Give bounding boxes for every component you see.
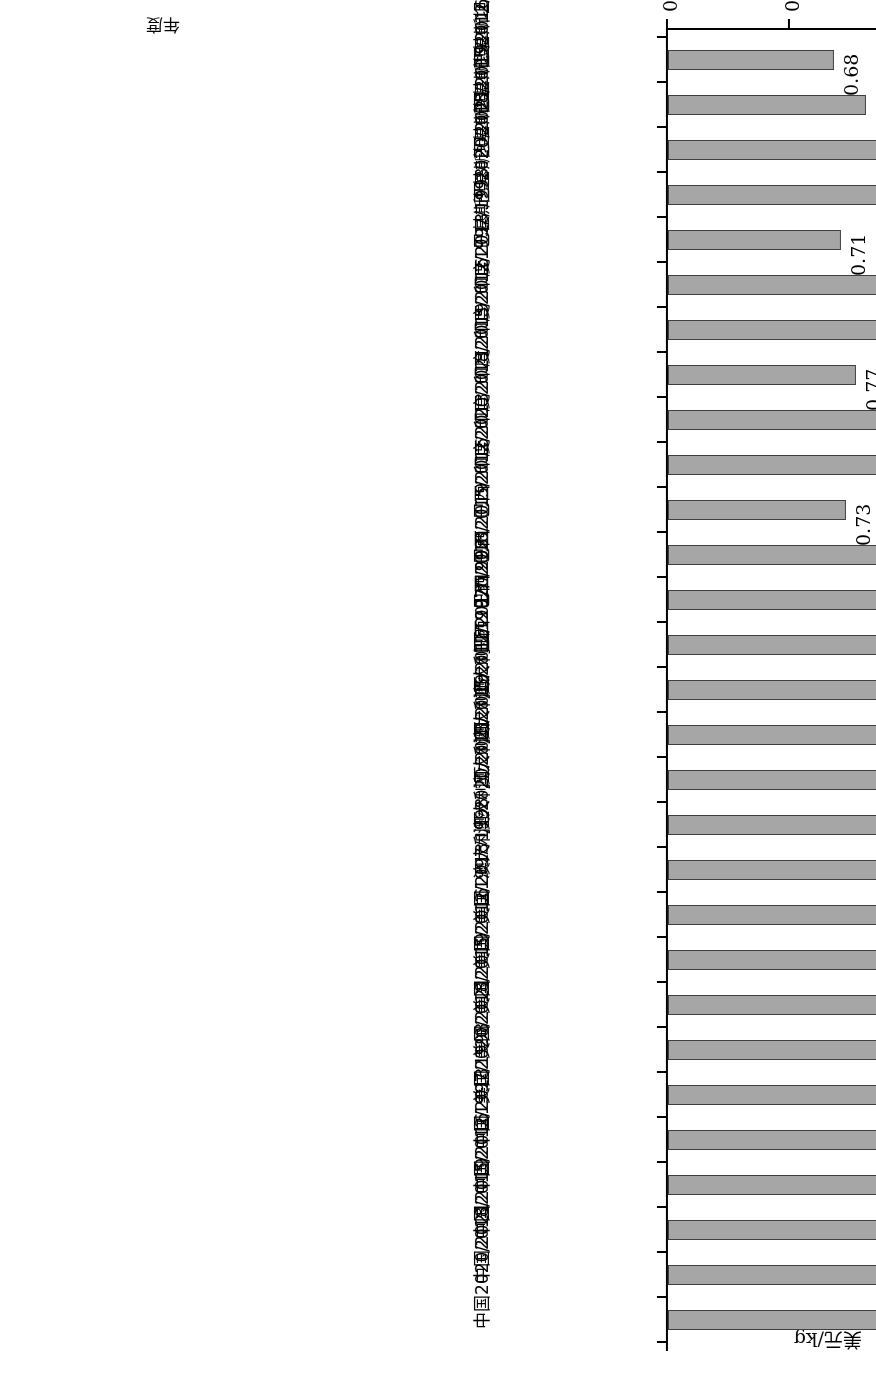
bar xyxy=(668,816,876,836)
bar xyxy=(668,1311,876,1331)
category-axis-tick xyxy=(657,1116,666,1118)
category-axis-tick xyxy=(657,351,666,353)
category-axis-tick xyxy=(657,1161,666,1163)
category-axis-tick xyxy=(657,216,666,218)
category-axis-tick xyxy=(657,1341,666,1343)
bar xyxy=(668,726,876,746)
bar xyxy=(668,51,834,71)
bar xyxy=(668,996,876,1016)
bar-value-label: 0.68 xyxy=(840,54,862,96)
value-axis-line xyxy=(666,28,876,30)
category-axis-tick xyxy=(657,801,666,803)
category-axis-title: 年度 xyxy=(146,14,180,39)
category-axis-tick xyxy=(657,846,666,848)
bar-value-label: 0.77 xyxy=(862,369,876,411)
bar xyxy=(668,546,876,566)
category-axis-tick xyxy=(657,1251,666,1253)
category-axis-tick xyxy=(657,81,666,83)
category-axis-tick xyxy=(657,621,666,623)
bar-value-label: 0.73 xyxy=(852,504,874,546)
category-axis-tick xyxy=(657,756,666,758)
value-axis-tick-label: 0 xyxy=(659,0,681,12)
category-axis-tick xyxy=(657,441,666,443)
bar xyxy=(668,321,876,341)
category-axis-tick xyxy=(657,261,666,263)
bar-value-label: 0.71 xyxy=(847,234,869,276)
bar xyxy=(668,636,876,656)
bar xyxy=(668,591,876,611)
category-axis-tick xyxy=(657,126,666,128)
value-axis-tick xyxy=(788,19,790,28)
bar-value-label: 0.81 xyxy=(872,99,876,141)
bar xyxy=(668,186,876,206)
category-axis-tick xyxy=(657,1071,666,1073)
rotated-figure-wrapper: 美元/kg 年度 00.511.522.5 1.57中国2020/20212.0… xyxy=(0,0,876,1383)
bar xyxy=(668,456,876,476)
bar xyxy=(668,861,876,881)
category-label: 巴基斯坦1997/1998 xyxy=(468,0,493,70)
category-axis-tick xyxy=(657,306,666,308)
bar xyxy=(668,906,876,926)
category-axis-tick xyxy=(657,1026,666,1028)
value-axis-title: 美元/kg xyxy=(794,1328,862,1355)
category-axis-tick xyxy=(657,396,666,398)
bar xyxy=(668,951,876,971)
bar xyxy=(668,366,856,386)
bar xyxy=(668,1266,876,1286)
bar xyxy=(668,1176,876,1196)
category-axis-tick xyxy=(657,981,666,983)
category-axis-tick xyxy=(657,531,666,533)
bar xyxy=(668,1086,876,1106)
bar xyxy=(668,1041,876,1061)
category-axis-tick xyxy=(657,891,666,893)
bar xyxy=(668,1131,876,1151)
category-axis-tick xyxy=(657,36,666,38)
bar xyxy=(668,1221,876,1241)
bar xyxy=(668,96,866,116)
value-axis-tick-label: 0.5 xyxy=(781,0,803,12)
bar xyxy=(668,411,876,431)
category-axis-tick xyxy=(657,711,666,713)
category-axis-tick xyxy=(657,936,666,938)
category-axis-tick xyxy=(657,1206,666,1208)
value-axis-tick xyxy=(666,19,668,28)
category-axis-tick xyxy=(657,171,666,173)
bar xyxy=(668,276,876,296)
bar xyxy=(668,771,876,791)
bar xyxy=(668,681,876,701)
category-axis-tick xyxy=(657,666,666,668)
bar-chart: 美元/kg 年度 00.511.522.5 1.57中国2020/20212.0… xyxy=(0,0,876,1383)
category-axis-tick xyxy=(657,486,666,488)
category-axis-tick xyxy=(657,576,666,578)
category-axis-tick xyxy=(657,1296,666,1298)
bar xyxy=(668,141,876,161)
bar xyxy=(668,501,846,521)
bar xyxy=(668,231,841,251)
